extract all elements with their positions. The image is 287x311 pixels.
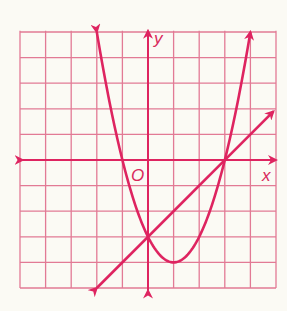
origin-label: O — [131, 166, 144, 185]
x-axis-label: x — [261, 166, 271, 185]
axes — [23, 31, 276, 291]
linear-function-line — [97, 111, 274, 288]
y-axis-label: y — [153, 29, 164, 48]
coordinate-graph: x y O — [0, 0, 287, 311]
